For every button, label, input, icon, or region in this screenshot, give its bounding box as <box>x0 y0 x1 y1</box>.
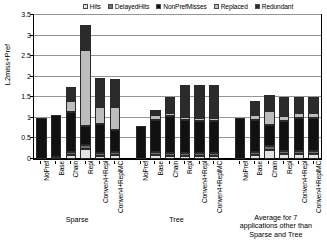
stacked-bar <box>250 101 260 159</box>
x-tick-label: Conven4+Repl <box>201 161 208 203</box>
bar-segment-redundant <box>66 87 76 101</box>
bar-segment-delayedhits <box>150 152 160 154</box>
legend-label: DelayedHits <box>115 3 149 10</box>
x-axis-labels: NoPrefBaseChainReplConven4+ReplConven4+R… <box>33 161 322 213</box>
bar-segment-hits <box>264 150 274 159</box>
bar-segment-nonprefmisses <box>194 121 204 153</box>
stacked-bar <box>308 97 318 159</box>
bar-segment-delayedhits <box>51 157 61 159</box>
legend-item-nonprefmisses: NonPrefMisses <box>156 3 206 10</box>
stacked-bar <box>51 115 61 159</box>
stacked-bar <box>209 85 219 159</box>
x-tick-label: Conven4+Repl <box>301 161 308 203</box>
bar-segment-delayedhits <box>194 153 204 155</box>
bar-segment-nonprefmisses <box>294 118 304 151</box>
chart-legend: HitsDelayedHitsNonPrefMissesReplacedRedu… <box>52 1 324 12</box>
legend-swatch-icon <box>214 4 219 9</box>
bar-segment-nonprefmisses <box>165 116 175 153</box>
legend-label: Hits <box>90 3 101 10</box>
stacked-bar <box>264 95 274 159</box>
stacked-bar <box>180 85 190 159</box>
bar-segment-redundant <box>165 97 175 113</box>
bar-segment-delayedhits <box>209 153 219 155</box>
x-tick-mark <box>55 161 56 164</box>
bar-segment-delayedhits <box>80 145 90 149</box>
y-tick-mark <box>30 137 33 138</box>
bar-segment-redundant <box>279 97 289 116</box>
legend-label: Replaced <box>221 3 248 10</box>
bar-segment-hits <box>250 155 260 159</box>
y-axis-scale: 00.511.522.533.5 <box>0 14 33 158</box>
x-tick-mark <box>70 161 71 164</box>
legend-item-delayedhits: DelayedHits <box>108 3 149 10</box>
x-tick-label: Chain <box>72 161 79 177</box>
bar-segment-redundant <box>110 79 120 107</box>
bar-segment-hits <box>95 156 105 159</box>
x-tick-label: Conven4+ReplMC <box>315 161 322 213</box>
bar-segment-nonprefmisses <box>180 120 190 153</box>
bar-segment-nonprefmisses <box>264 125 274 146</box>
bar-segment-redundant <box>250 101 260 115</box>
bar-segment-delayedhits <box>95 153 105 155</box>
stacked-bar <box>110 79 120 159</box>
bar-series-container <box>34 15 321 159</box>
x-tick-mark <box>40 161 41 164</box>
bar-segment-delayedhits <box>294 151 304 154</box>
bar-segment-nonprefmisses <box>80 126 90 145</box>
legend-label: NonPrefMisses <box>163 3 206 10</box>
x-tick-mark <box>184 161 185 164</box>
x-tick-label: Repl <box>286 161 293 174</box>
x-tick-label: Base <box>58 161 65 175</box>
bar-segment-nonprefmisses <box>150 120 160 153</box>
legend-swatch-icon <box>108 4 113 9</box>
bar-segment-delayedhits <box>308 151 318 154</box>
stacked-bar <box>66 87 76 159</box>
group-label-line: Tree <box>122 216 232 224</box>
y-tick-mark <box>30 35 33 36</box>
x-tick-mark <box>140 161 141 164</box>
stacked-bar <box>279 97 289 159</box>
x-tick-label: Chain <box>172 161 179 177</box>
bar-segment-nonprefmisses <box>279 121 289 151</box>
bar-segment-replaced <box>95 107 105 124</box>
bar-segment-hits <box>180 156 190 159</box>
bar-segment-hits <box>194 156 204 159</box>
bar-segment-nonprefmisses <box>95 124 105 153</box>
x-tick-label: Base <box>256 161 263 175</box>
bar-segment-replaced <box>308 113 318 118</box>
bar-segment-replaced <box>80 50 90 126</box>
bar-segment-hits <box>80 149 90 159</box>
y-tick-mark <box>30 96 33 97</box>
x-tick-mark <box>298 161 299 164</box>
bar-segment-hits <box>209 156 219 159</box>
group-label-1: Tree <box>122 216 232 224</box>
stacked-bar <box>150 110 160 159</box>
bar-segment-delayedhits <box>264 146 274 150</box>
bar-segment-redundant <box>308 97 318 113</box>
bar-segment-hits <box>110 155 120 159</box>
bar-segment-replaced <box>66 101 76 112</box>
x-tick-mark <box>254 161 255 164</box>
bar-segment-nonprefmisses <box>250 120 260 153</box>
bar-segment-hits <box>150 155 160 159</box>
bar-segment-replaced <box>165 113 175 116</box>
bar-segment-redundant <box>294 97 304 113</box>
stacked-bar <box>80 25 90 159</box>
group-label-line: Sparse <box>22 216 132 224</box>
bar-segment-nonprefmisses <box>110 130 120 153</box>
legend-swatch-icon <box>255 4 260 9</box>
stacked-bar <box>165 97 175 159</box>
x-tick-mark <box>85 161 86 164</box>
bar-segment-hits <box>66 155 76 159</box>
bar-segment-hits <box>165 156 175 159</box>
group-label-2: Average for 7applications other thanSpar… <box>221 214 327 239</box>
bar-segment-nonprefmisses <box>209 121 219 153</box>
bar-segment-replaced <box>194 118 204 121</box>
bar-segment-redundant <box>180 85 190 117</box>
bar-segment-delayedhits <box>66 152 76 154</box>
bar-segment-replaced <box>150 115 160 119</box>
bar-segment-nonprefmisses <box>308 118 318 151</box>
bar-segment-delayedhits <box>110 152 120 154</box>
y-tick-mark <box>30 14 33 15</box>
bar-segment-hits <box>279 154 289 159</box>
